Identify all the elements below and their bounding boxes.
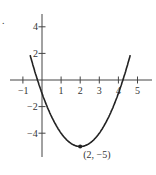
figure-marker: . xyxy=(2,15,5,26)
vertex-point xyxy=(78,145,82,149)
x-tick-label: −1 xyxy=(18,85,29,96)
parabola-graph: . −11234542−2−4 (2, −5) xyxy=(0,0,156,175)
vertex-label: (2, −5) xyxy=(83,149,110,161)
x-tick-label: 5 xyxy=(135,85,140,96)
y-tick-label: 2 xyxy=(33,48,38,59)
x-tick-label: 1 xyxy=(59,85,64,96)
y-tick-label: −4 xyxy=(27,128,38,139)
x-tick-label: 2 xyxy=(78,85,83,96)
x-tick-label: 3 xyxy=(97,85,102,96)
y-tick-label: −2 xyxy=(27,101,38,112)
y-tick-label: 4 xyxy=(33,21,38,32)
